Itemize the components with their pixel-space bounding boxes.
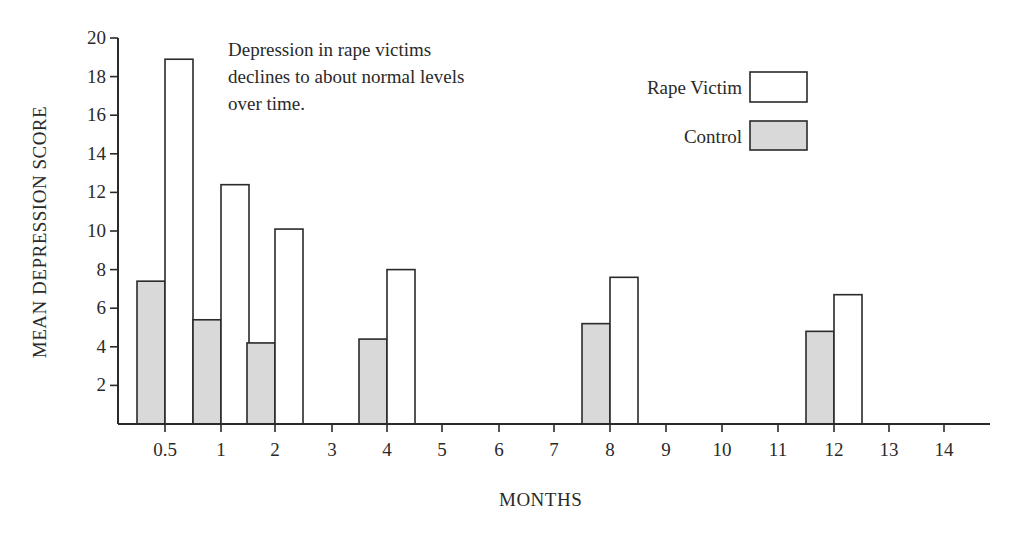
bar-rape-victim: [834, 295, 862, 424]
y-tick-label: 8: [66, 260, 106, 279]
x-tick-label: 11: [758, 440, 798, 459]
bar-control: [247, 343, 275, 424]
x-tick-label: 10: [702, 440, 742, 459]
y-tick-label: 2: [66, 375, 106, 394]
y-tick-label: 14: [66, 144, 106, 163]
bar-control: [359, 339, 387, 424]
y-tick-label: 16: [66, 105, 106, 124]
x-tick-label: 4: [367, 440, 407, 459]
y-axis-label: MEAN DEPRESSION SCORE: [29, 106, 51, 358]
bar-rape-victim: [275, 229, 303, 424]
y-tick-label: 18: [66, 67, 106, 86]
bar-control: [137, 281, 165, 424]
bar-rape-victim: [165, 59, 193, 424]
legend-swatch-rape-victim: [750, 72, 807, 102]
x-axis-label: MONTHS: [499, 489, 582, 511]
x-tick-label: 0.5: [145, 440, 185, 459]
x-tick-label: 12: [814, 440, 854, 459]
legend-label-control: Control: [592, 126, 742, 148]
legend-label-rape-victim: Rape Victim: [592, 77, 742, 99]
y-tick-label: 10: [66, 221, 106, 240]
x-tick-label: 2: [255, 440, 295, 459]
x-tick-label: 13: [869, 440, 909, 459]
y-tick-label: 20: [66, 28, 106, 47]
x-tick-label: 5: [422, 440, 462, 459]
x-tick-label: 1: [201, 440, 241, 459]
bar-chart: MEAN DEPRESSION SCORE MONTHS Depression …: [0, 0, 1011, 534]
y-tick-label: 12: [66, 182, 106, 201]
x-tick-label: 8: [590, 440, 630, 459]
y-tick-label: 4: [66, 337, 106, 356]
legend-swatch-control: [750, 121, 807, 150]
bar-rape-victim: [387, 270, 415, 424]
bar-control: [582, 324, 610, 424]
x-tick-label: 9: [646, 440, 686, 459]
y-tick-label: 6: [66, 298, 106, 317]
x-tick-label: 14: [924, 440, 964, 459]
chart-annotation: Depression in rape victims declines to a…: [228, 36, 464, 117]
bar-rape-victim: [610, 277, 638, 424]
bar-control: [806, 331, 834, 424]
x-tick-label: 3: [312, 440, 352, 459]
x-tick-label: 6: [479, 440, 519, 459]
x-tick-label: 7: [534, 440, 574, 459]
bar-rape-victim: [221, 185, 249, 424]
bar-control: [193, 320, 221, 424]
